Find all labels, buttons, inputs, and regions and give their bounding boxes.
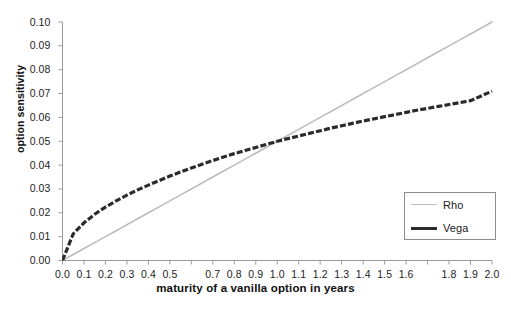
y-tick-label: 0.03 — [15, 183, 51, 193]
x-tick-label: 2.0 — [479, 269, 505, 279]
y-axis-title: option sensitivity — [10, 34, 28, 184]
y-tick-label: 0.01 — [15, 231, 51, 241]
x-tick-marks — [63, 261, 493, 265]
legend-label-vega: Vega — [443, 222, 468, 234]
legend-item-vega: Vega — [405, 217, 497, 239]
legend-swatch-vega-icon — [411, 222, 437, 234]
x-axis-title: maturity of a vanilla option in years — [0, 282, 511, 294]
y-axis-title-text: option sensitivity — [14, 65, 26, 153]
legend-swatch-rho-icon — [411, 199, 437, 211]
y-tick-label: 0.02 — [15, 207, 51, 217]
x-tick-label: 1.6 — [393, 269, 419, 279]
y-tick-marks — [59, 22, 63, 261]
y-tick-label: 0.00 — [15, 255, 51, 265]
chart-legend: Rho Vega — [404, 192, 496, 240]
y-tick-label: 0.10 — [15, 17, 51, 27]
legend-item-rho: Rho — [405, 194, 497, 216]
x-tick-label: 0.5 — [157, 269, 183, 279]
chart-figure: 0.000.010.020.030.040.050.060.070.080.09… — [0, 0, 511, 313]
plot-canvas — [0, 0, 511, 313]
legend-label-rho: Rho — [443, 199, 463, 211]
